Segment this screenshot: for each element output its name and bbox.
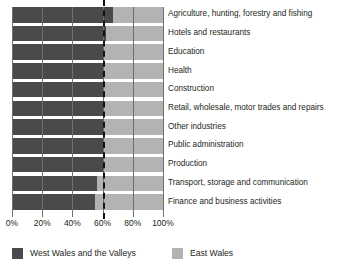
legend-item: West Wales and the Valleys: [12, 248, 136, 259]
category-label: Public administration: [168, 141, 364, 149]
gridline-80-percent: [133, 7, 134, 213]
bar-row: [12, 82, 163, 98]
bar-row: [12, 157, 163, 173]
category-label: Agriculture, hunting, forestry and fishi…: [168, 10, 364, 18]
bar-segment-west-wales: [12, 138, 103, 154]
x-tick-80: [133, 213, 134, 217]
bar-segment-west-wales: [12, 194, 95, 210]
x-tick-label: 0%: [0, 218, 26, 229]
bar-segment-west-wales: [12, 176, 97, 192]
category-label: Education: [168, 48, 364, 56]
legend-item: East Wales: [172, 248, 233, 259]
gridline-40-percent: [72, 7, 73, 213]
bar-segment-east-wales: [106, 26, 163, 42]
bar-segment-west-wales: [12, 7, 113, 23]
legend-swatch-icon: [12, 248, 23, 259]
category-labels: Agriculture, hunting, forestry and fishi…: [168, 7, 364, 213]
bar-row: [12, 194, 163, 210]
bar-segment-east-wales: [95, 194, 163, 210]
bar-row: [12, 26, 163, 42]
stacked-bar-chart: Agriculture, hunting, forestry and fishi…: [0, 0, 364, 270]
bar-row: [12, 63, 163, 79]
bar-segment-west-wales: [12, 157, 103, 173]
bar-segment-east-wales: [97, 176, 163, 192]
plot-area: [12, 7, 163, 213]
category-label: Transport, storage and communication: [168, 179, 364, 187]
x-tick-label: 60%: [89, 218, 117, 229]
bar-segment-west-wales: [12, 63, 104, 79]
category-label: Retail, wholesale, motor trades and repa…: [168, 104, 364, 112]
category-label: Construction: [168, 85, 364, 93]
bar-row: [12, 101, 163, 117]
gridline-0-percent: [12, 7, 13, 213]
category-label: Production: [168, 160, 364, 168]
category-label: Hotels and restaurants: [168, 29, 364, 37]
bar-segment-west-wales: [12, 82, 103, 98]
bar-segment-west-wales: [12, 119, 103, 135]
bar-row: [12, 44, 163, 60]
reference-line-60-percent: [103, 0, 105, 219]
category-label: Other industries: [168, 123, 364, 131]
legend-label: East Wales: [190, 248, 233, 259]
gridline-100-percent: [163, 7, 164, 213]
x-tick-label: 100%: [149, 218, 177, 229]
category-label: Health: [168, 67, 364, 75]
bar-row: [12, 119, 163, 135]
x-tick-100: [163, 213, 164, 217]
bar-segment-west-wales: [12, 101, 103, 117]
x-axis-tick-labels: 0%20%40%60%80%100%: [0, 218, 200, 232]
bar-row: [12, 7, 163, 23]
category-label: Finance and business activities: [168, 198, 364, 206]
x-tick-40: [72, 213, 73, 217]
bar-segment-west-wales: [12, 26, 106, 42]
x-tick-label: 20%: [28, 218, 56, 229]
bar-segment-west-wales: [12, 44, 104, 60]
bar-segment-east-wales: [113, 7, 163, 23]
legend-label: West Wales and the Valleys: [30, 248, 136, 259]
bar-row: [12, 138, 163, 154]
x-tick-label: 40%: [58, 218, 86, 229]
gridline-20-percent: [42, 7, 43, 213]
bar-row: [12, 176, 163, 192]
x-tick-20: [42, 213, 43, 217]
legend-swatch-icon: [172, 248, 183, 259]
x-tick-0: [12, 213, 13, 217]
bar-rows: [12, 7, 163, 213]
x-tick-label: 80%: [119, 218, 147, 229]
